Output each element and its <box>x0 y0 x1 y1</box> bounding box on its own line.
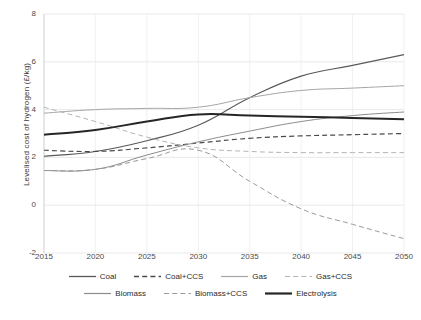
legend-row-secondary: BiomassBiomass+CCSElectrolysis <box>0 289 421 298</box>
legend-line-swatch <box>84 290 111 297</box>
legend-item-label: Coal+CCS <box>165 272 203 281</box>
x-axis-tick-label: 2015 <box>24 252 64 261</box>
legend-item[interactable]: Electrolysis <box>265 289 336 298</box>
legend-item[interactable]: Coal+CCS <box>134 272 203 281</box>
legend-item-label: Gas <box>252 272 267 281</box>
legend-item-label: Coal <box>100 272 116 281</box>
y-axis-tick-label: 8 <box>16 9 36 18</box>
legend-line-swatch <box>221 273 248 280</box>
chart-plot-area: Levelised cost of hydrogen (£/kg) 86420-… <box>0 0 421 268</box>
y-axis-tick-label: 2 <box>16 152 36 161</box>
legend-item-label: Electrolysis <box>296 289 336 298</box>
legend-item[interactable]: Biomass+CCS <box>164 289 247 298</box>
legend-item[interactable]: Gas <box>221 272 267 281</box>
legend-line-swatch <box>134 273 161 280</box>
x-axis-tick-label: 2045 <box>333 252 373 261</box>
series-line-biomass <box>44 112 404 171</box>
chart-legend: CoalCoal+CCSGasGas+CCS BiomassBiomass+CC… <box>0 272 421 306</box>
x-axis-tick-label: 2040 <box>281 252 321 261</box>
x-axis-tick-label: 2030 <box>178 252 218 261</box>
y-axis-label: Levelised cost of hydrogen (£/kg) <box>22 25 31 225</box>
legend-item[interactable]: Coal <box>69 272 116 281</box>
legend-line-swatch <box>265 290 292 297</box>
legend-item-label: Biomass <box>115 289 146 298</box>
x-axis-tick-label: 2025 <box>127 252 167 261</box>
legend-item[interactable]: Biomass <box>84 289 146 298</box>
x-axis-tick-label: 2035 <box>230 252 270 261</box>
line-chart-svg <box>0 0 421 268</box>
legend-item-label: Gas+CCS <box>316 272 352 281</box>
x-axis-tick-label: 2050 <box>384 252 421 261</box>
series-line-gas <box>44 86 404 113</box>
series-line-biomass-plus-ccs <box>44 149 404 239</box>
y-axis-tick-label: 0 <box>16 200 36 209</box>
y-axis-tick-label: 4 <box>16 105 36 114</box>
legend-item[interactable]: Gas+CCS <box>285 272 352 281</box>
legend-line-swatch <box>285 273 312 280</box>
legend-item-label: Biomass+CCS <box>195 289 247 298</box>
legend-line-swatch <box>69 273 96 280</box>
legend-line-swatch <box>164 290 191 297</box>
x-axis-tick-label: 2020 <box>75 252 115 261</box>
legend-row-primary: CoalCoal+CCSGasGas+CCS <box>0 272 421 281</box>
series-line-electrolysis <box>44 114 404 135</box>
y-axis-tick-label: 6 <box>16 57 36 66</box>
chart-figure: Levelised cost of hydrogen (£/kg) 86420-… <box>0 0 421 320</box>
